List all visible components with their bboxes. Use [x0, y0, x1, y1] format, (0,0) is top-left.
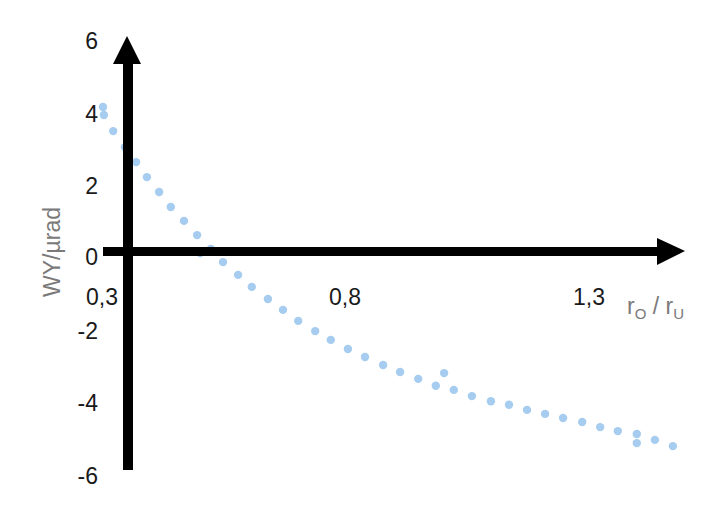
data-point [468, 392, 476, 400]
data-point [505, 401, 513, 409]
data-point [327, 336, 335, 344]
data-point [414, 375, 422, 383]
y-tick-label: 0 [85, 244, 98, 270]
data-point [432, 382, 440, 390]
data-point [264, 295, 272, 303]
data-point [248, 283, 256, 291]
data-point [633, 430, 641, 438]
data-points [99, 103, 677, 451]
data-point [311, 327, 319, 335]
data-point [596, 423, 604, 431]
data-point [294, 317, 302, 325]
data-point [450, 386, 458, 394]
y-tick-labels: 6 4 2 0 -2 -4 -6 [78, 28, 99, 489]
x-tick-label: 0,3 [86, 284, 118, 310]
data-point [219, 258, 227, 266]
data-point [193, 231, 201, 239]
x-axis-title: rO / rU [627, 293, 684, 322]
data-point [279, 306, 287, 314]
y-tick-label: -6 [78, 463, 98, 489]
data-point [167, 203, 175, 211]
data-point [99, 103, 107, 111]
data-point [361, 353, 369, 361]
data-point [578, 418, 586, 426]
x-tick-label: 0,8 [329, 284, 361, 310]
y-axis-arrow-icon [113, 36, 141, 64]
data-point [143, 173, 151, 181]
y-axis-line [123, 60, 133, 470]
data-point [344, 345, 352, 353]
y-tick-label: -2 [78, 318, 98, 344]
data-point [559, 414, 567, 422]
data-point [669, 442, 677, 450]
x-axis-line [103, 247, 661, 256]
data-point [633, 439, 641, 447]
data-point [234, 271, 242, 279]
x-axis [103, 238, 685, 265]
x-axis-arrow-icon [657, 238, 685, 265]
data-point [614, 427, 622, 435]
x-axis-title-sub2: U [673, 305, 684, 322]
y-tick-label: -4 [78, 390, 99, 416]
x-tick-labels: 0,3 0,8 1,3 [86, 284, 605, 310]
x-tick-label: 1,3 [573, 284, 605, 310]
data-point [440, 369, 448, 377]
data-point [100, 111, 108, 119]
y-tick-label: 6 [85, 28, 98, 54]
data-point [396, 368, 404, 376]
y-axis-title: WY/µrad [39, 207, 65, 297]
data-point [379, 361, 387, 369]
x-axis-title-sub1: O [635, 305, 647, 322]
data-point [109, 127, 117, 135]
data-point [180, 217, 188, 225]
data-point [541, 410, 549, 418]
data-point [651, 436, 659, 444]
x-axis-title-sep: / [646, 293, 665, 319]
data-point [523, 406, 531, 414]
data-point [487, 397, 495, 405]
data-point [132, 158, 140, 166]
data-point [155, 188, 163, 196]
y-tick-label: 2 [85, 173, 98, 199]
y-tick-label: 4 [85, 101, 98, 127]
scatter-chart: 6 4 2 0 -2 -4 -6 0,3 0,8 1,3 WY/µrad rO … [0, 0, 728, 508]
